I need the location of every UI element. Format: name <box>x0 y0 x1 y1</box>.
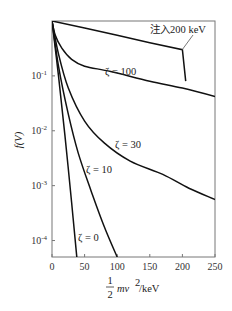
label-inject: 注入200 keV <box>150 23 206 35</box>
label-zeta-0: ζ = 0 <box>78 232 99 244</box>
y-axis: 10-110-210-310-4 <box>31 69 55 246</box>
label-zeta-100: ζ = 100 <box>105 66 136 78</box>
svg-text:2: 2 <box>107 289 112 300</box>
label-zeta-30: ζ = 30 <box>115 139 141 151</box>
svg-text:mv: mv <box>117 283 130 294</box>
y-tick-label: 10-4 <box>31 234 47 246</box>
x-tick-label: 200 <box>175 261 190 272</box>
y-tick-label: 10-3 <box>31 179 47 191</box>
chart: 050100150200250 10-110-210-310-4 注入200 k… <box>0 0 232 311</box>
curve--30 <box>52 21 215 200</box>
curve--0 <box>52 21 77 257</box>
x-tick-label: 0 <box>50 261 55 272</box>
y-tick-label: 10-1 <box>31 69 47 81</box>
svg-text:/keV: /keV <box>139 283 160 294</box>
x-axis-label: 1 2 mv 2 /keV <box>106 275 160 300</box>
label-zeta-10: ζ = 10 <box>86 164 112 176</box>
x-tick-label: 50 <box>80 261 90 272</box>
x-tick-label: 150 <box>142 261 157 272</box>
x-tick-label: 100 <box>110 261 125 272</box>
x-tick-label: 250 <box>208 261 223 272</box>
inject-leader-line <box>182 35 193 50</box>
y-tick-label: 10-2 <box>31 124 47 136</box>
svg-text:1: 1 <box>107 275 112 286</box>
curve--10 <box>52 21 117 257</box>
y-axis-label: f(V) <box>13 131 25 148</box>
